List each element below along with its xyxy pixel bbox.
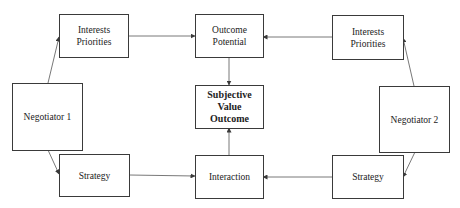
node-subjective-value-outcome: Subjective Value Outcome xyxy=(195,85,264,129)
node-label: Strategy xyxy=(79,170,111,182)
edge-strategy-interaction xyxy=(129,175,195,176)
node-strategy-left: Strategy xyxy=(59,154,130,197)
node-interests-priorities-right: Interests Priorities xyxy=(332,15,404,60)
node-interaction: Interaction xyxy=(195,155,264,199)
node-label: Value xyxy=(217,101,241,113)
node-label: Outcome xyxy=(210,113,249,125)
node-interests-priorities-left: Interests Priorities xyxy=(59,14,129,58)
edge-negotiator1-strategy xyxy=(48,150,59,174)
node-label: Potential xyxy=(213,36,247,48)
edge-negotiator1-interests xyxy=(48,37,59,83)
node-label: Interests xyxy=(352,26,384,38)
node-label: Interests xyxy=(78,24,110,36)
node-label: Priorities xyxy=(351,38,386,50)
node-label: Strategy xyxy=(352,171,384,183)
node-label: Outcome xyxy=(212,24,247,36)
node-outcome-potential: Outcome Potential xyxy=(195,14,264,58)
edge-negotiator2-strategy xyxy=(403,152,415,177)
node-label: Subjective xyxy=(207,89,251,101)
node-label: Negotiator 1 xyxy=(24,111,72,123)
node-negotiator-1: Negotiator 1 xyxy=(12,83,83,151)
node-strategy-right: Strategy xyxy=(332,155,404,199)
node-label: Negotiator 2 xyxy=(391,114,439,126)
node-negotiator-2: Negotiator 2 xyxy=(379,86,450,153)
node-label: Interaction xyxy=(209,171,250,183)
edge-negotiator2-interests xyxy=(403,38,414,86)
node-label: Priorities xyxy=(77,36,112,48)
